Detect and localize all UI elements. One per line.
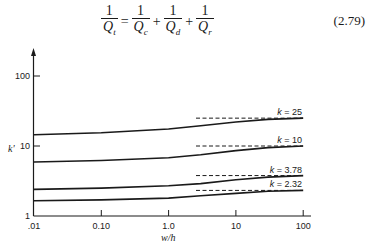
x-tick-label: 1.0 [162, 221, 175, 231]
x-axis-title: w/h [161, 232, 175, 243]
x-tick-label: .01 [28, 221, 41, 231]
tick-labels: .010.101.010100110100 [15, 71, 311, 231]
curves [34, 118, 303, 201]
curve-2.32 [34, 190, 303, 200]
k-label: k = 2.32 [270, 179, 302, 189]
y-axis-arrow-icon [31, 48, 36, 56]
y-axis-title: k' [8, 143, 15, 154]
y-tick-label: 100 [15, 71, 30, 81]
x-tick-label: 0.10 [93, 221, 111, 231]
k-label: k = 25 [277, 107, 302, 117]
y-tick-label: 10 [20, 141, 30, 151]
x-tick-label: 100 [296, 221, 311, 231]
curve-10 [34, 146, 303, 162]
y-tick-label: 1 [25, 211, 30, 221]
k-label: k = 3.78 [270, 165, 302, 175]
k-label: k = 10 [277, 135, 302, 145]
curve-25 [34, 118, 303, 135]
curve-3.78 [34, 176, 303, 190]
x-tick-label: 10 [231, 221, 241, 231]
chart: .010.101.010100110100 k = 25k = 10k = 3.… [0, 0, 369, 247]
